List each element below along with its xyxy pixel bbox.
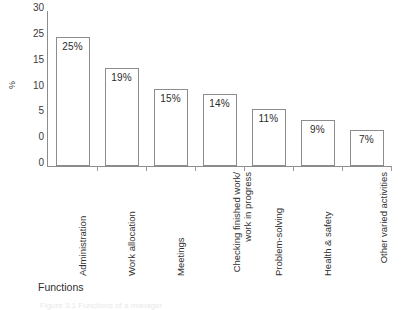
x-axis-category-text: Meetings [175, 237, 186, 276]
x-axis-tick [244, 166, 245, 171]
bar-slot: 15% [146, 11, 195, 166]
y-axis-tick-zero: 0 [18, 158, 44, 168]
bar: 19% [105, 68, 139, 166]
y-axis-tick-0: 30 [18, 3, 44, 13]
x-axis-category-text: Problem-solving [273, 208, 284, 276]
x-axis-tick [293, 166, 294, 171]
bar-value-label: 15% [155, 93, 187, 104]
bar-value-label: 19% [106, 72, 138, 83]
x-axis-line [47, 166, 391, 167]
bar-value-label: 14% [204, 98, 236, 109]
bar-slot: 7% [342, 11, 391, 166]
bar-chart: % 30251510500 25%19%15%14%11%9%7% Admini… [0, 0, 413, 310]
bar: 14% [203, 94, 237, 166]
x-axis-category-label: Problem-solving [244, 172, 293, 280]
x-axis-category-label: Other varied activities [342, 172, 391, 280]
y-axis-tick-labels: 30251510500 [18, 8, 44, 168]
x-axis-category-text: Other varied activities [378, 172, 389, 276]
y-axis-tick-5: 0 [18, 132, 44, 142]
x-axis-title: Functions [38, 281, 84, 293]
y-axis-tick-2: 15 [18, 55, 44, 65]
y-axis-title: % [7, 75, 17, 95]
bar: 25% [56, 37, 90, 166]
bar-value-label: 7% [351, 134, 383, 145]
bar-slot: 11% [244, 11, 293, 166]
y-axis-tick-1: 25 [18, 29, 44, 39]
x-axis-category-label: Health & safety [293, 172, 342, 280]
x-axis-category-labels: AdministrationWork allocationMeetingsChe… [48, 172, 391, 280]
figure-caption: Figure 3.1 Functions of a manager [40, 301, 162, 310]
bar-slot: 9% [293, 11, 342, 166]
x-axis-category-label: Work allocation [97, 172, 146, 280]
x-axis-category-label: Administration [48, 172, 97, 280]
x-axis-tick [97, 166, 98, 171]
bar-value-label: 9% [302, 124, 334, 135]
x-axis-tick [146, 166, 147, 171]
x-axis-category-text: Health & safety [322, 212, 333, 276]
bar: 11% [252, 109, 286, 166]
x-axis-tick [195, 166, 196, 171]
x-axis-category-text: Work allocation [126, 211, 137, 276]
x-axis-category-label: Checking finished work/ work in progress [195, 172, 244, 280]
bar: 9% [301, 120, 335, 167]
bar-value-label: 25% [57, 41, 89, 52]
plot-area: 25%19%15%14%11%9%7% [48, 11, 391, 166]
bar-value-label: 11% [253, 113, 285, 124]
x-axis-tick [391, 166, 392, 171]
bar: 15% [154, 89, 188, 167]
bar-slot: 25% [48, 11, 97, 166]
x-axis-tick [342, 166, 343, 171]
y-axis-tick-4: 5 [18, 106, 44, 116]
x-axis-category-label: Meetings [146, 172, 195, 280]
bar-slot: 14% [195, 11, 244, 166]
x-axis-category-text: Administration [77, 216, 88, 276]
bar-slot: 19% [97, 11, 146, 166]
y-axis-tick-3: 10 [18, 81, 44, 91]
bar: 7% [350, 130, 384, 166]
